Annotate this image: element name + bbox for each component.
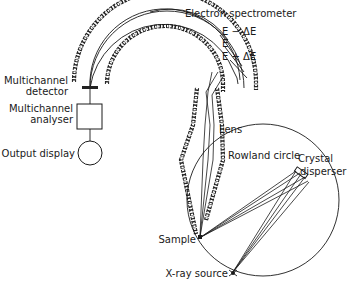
- label-xray-source: X-ray source: [165, 268, 228, 279]
- label-e-plus-delta-e: E + ΔE: [222, 51, 256, 62]
- label-electron-spectrometer: Electron spectrometer: [185, 8, 297, 19]
- label-multichannel-detector-2: detector: [26, 86, 69, 97]
- label-output-display: Output display: [2, 148, 76, 159]
- electron-path-e-minus: [90, 9, 240, 88]
- detector-chain: [77, 86, 102, 165]
- output-display-icon: [78, 141, 102, 165]
- label-disperser: disperser: [300, 166, 347, 177]
- multichannel-detector: [82, 86, 98, 89]
- label-sample: Sample: [159, 234, 197, 245]
- label-e: E: [222, 38, 228, 49]
- label-multichannel-analyser-1: Multichannel: [9, 103, 73, 114]
- multichannel-analyser-box: [77, 104, 102, 129]
- xray-source-icon: [229, 270, 237, 276]
- label-multichannel-analyser-2: analyser: [30, 114, 74, 125]
- label-e-minus-delta-e: E − ΔE: [222, 26, 256, 37]
- label-crystal: Crystal: [298, 153, 333, 164]
- label-lens: Lens: [219, 124, 242, 135]
- spectrometer-diagram: Electron spectrometer E − ΔE E E + ΔE Mu…: [0, 0, 350, 287]
- label-rowland-circle: Rowland circle: [228, 150, 300, 161]
- sample-marker: [198, 235, 202, 239]
- label-multichannel-detector-1: Multichannel: [4, 75, 68, 86]
- xray-rays: [201, 171, 309, 272]
